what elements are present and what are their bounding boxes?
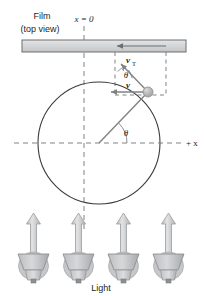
- lamp-group: [18, 213, 184, 283]
- lamp-item: [153, 213, 184, 283]
- lamp-bulb: [161, 270, 177, 280]
- horizontal-velocity-label: v: [126, 80, 131, 90]
- light-label: Light: [91, 283, 111, 293]
- particle-angle-label: θ: [124, 70, 129, 80]
- lamp-item: [108, 213, 139, 283]
- lamp-item: [18, 213, 49, 283]
- origin-label: x = 0: [73, 14, 94, 24]
- lamp-bulb: [71, 270, 87, 280]
- x-axis-label: + x: [186, 138, 198, 148]
- lamp-base: [166, 279, 171, 283]
- particle-marker: [143, 87, 153, 97]
- film-title-line1: Film: [34, 11, 51, 21]
- tangential-velocity-label: v: [126, 55, 131, 65]
- diagram-canvas: Film (top view) x = 0 + x θ v T v: [0, 0, 204, 296]
- lamp-base: [31, 279, 36, 283]
- tangential-velocity-subscript: T: [132, 60, 136, 67]
- lamp-base: [121, 279, 126, 283]
- lamp-shade: [108, 254, 139, 270]
- physics-diagram-figure: Film (top view) x = 0 + x θ v T v: [0, 0, 204, 296]
- lamp-shade: [63, 254, 94, 270]
- lamp-shade: [18, 254, 49, 270]
- film-title-line2: (top view): [20, 24, 59, 34]
- lamp-item: [63, 213, 94, 283]
- lamp-base: [76, 279, 81, 283]
- lamp-shade: [153, 254, 184, 270]
- center-angle-label: θ: [124, 128, 129, 138]
- lamp-bulb: [116, 270, 132, 280]
- lamp-bulb: [26, 270, 42, 280]
